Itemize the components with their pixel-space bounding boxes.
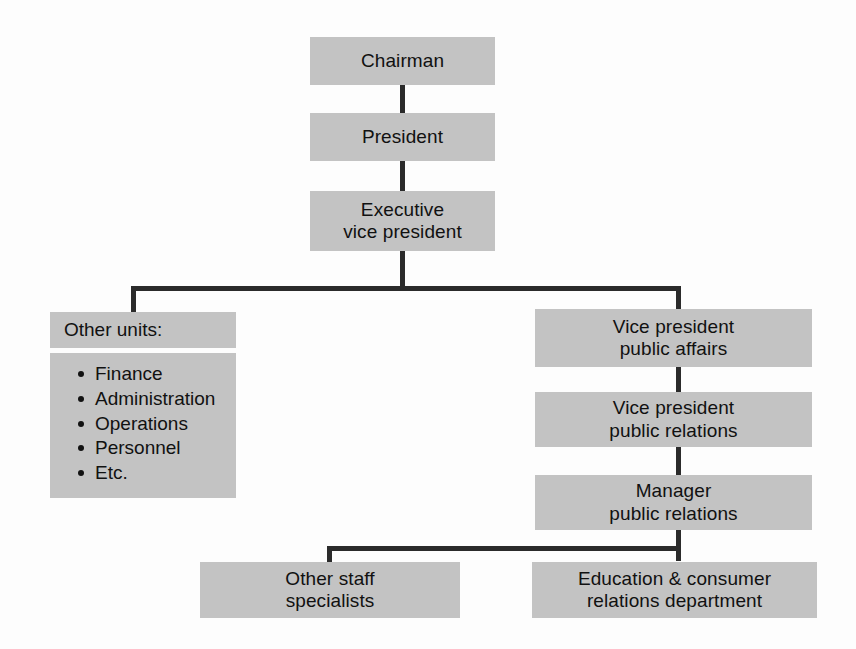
- list-item[interactable]: Etc.: [76, 461, 236, 486]
- node-vp-public-affairs-line2: public affairs: [620, 338, 728, 360]
- node-vp-public-relations-line2: public relations: [609, 420, 737, 442]
- node-president-label: President: [362, 126, 443, 148]
- node-manager-public-relations-line2: public relations: [609, 503, 737, 525]
- node-vice-president-public-relations[interactable]: Vice president public relations: [535, 392, 812, 447]
- node-education-consumer-line1: Education & consumer: [578, 568, 771, 590]
- connector-chairman-president: [400, 85, 405, 113]
- other-units-item-label: Operations: [95, 413, 188, 434]
- node-other-units[interactable]: Other units: Finance Administration Oper…: [50, 312, 236, 498]
- connector-bottom-bus: [327, 546, 681, 551]
- node-vp-public-relations-line1: Vice president: [613, 397, 734, 419]
- node-manager-public-relations-line1: Manager: [636, 480, 712, 502]
- connector-bus-to-other-units: [131, 286, 136, 312]
- node-executive-vice-president[interactable]: Executive vice president: [310, 191, 495, 251]
- connector-evp-bus: [131, 286, 681, 291]
- other-units-item-label: Finance: [95, 363, 163, 384]
- node-vice-president-public-affairs[interactable]: Vice president public affairs: [535, 309, 812, 367]
- node-education-consumer-relations[interactable]: Education & consumer relations departmen…: [532, 562, 817, 618]
- node-chairman[interactable]: Chairman: [310, 37, 495, 85]
- node-other-staff-line1: Other staff: [285, 568, 374, 590]
- list-item[interactable]: Personnel: [76, 436, 236, 461]
- connector-president-evp: [400, 161, 405, 191]
- other-units-item-label: Administration: [95, 388, 215, 409]
- node-other-staff-specialists[interactable]: Other staff specialists: [200, 562, 460, 618]
- other-units-list: Finance Administration Operations Person…: [50, 362, 236, 485]
- connector-evp-stem: [400, 251, 405, 286]
- org-chart-canvas: Chairman President Executive vice presid…: [0, 0, 856, 649]
- node-evp-label-line2: vice president: [343, 221, 462, 243]
- other-units-item-label: Personnel: [95, 437, 181, 458]
- node-other-units-body: Finance Administration Operations Person…: [50, 353, 236, 497]
- node-other-units-header: Other units:: [50, 312, 236, 348]
- node-other-staff-line2: specialists: [286, 590, 375, 612]
- list-item[interactable]: Operations: [76, 412, 236, 437]
- node-manager-public-relations[interactable]: Manager public relations: [535, 475, 812, 530]
- node-evp-label-line1: Executive: [361, 199, 444, 221]
- other-units-item-label: Etc.: [95, 462, 128, 483]
- node-president[interactable]: President: [310, 113, 495, 161]
- list-item[interactable]: Finance: [76, 362, 236, 387]
- connector-vp-relations-manager: [676, 447, 681, 475]
- node-vp-public-affairs-line1: Vice president: [613, 316, 734, 338]
- node-chairman-label: Chairman: [361, 50, 444, 72]
- node-education-consumer-line2: relations department: [587, 590, 762, 612]
- connector-vp-affairs-vp-relations: [676, 367, 681, 392]
- list-item[interactable]: Administration: [76, 387, 236, 412]
